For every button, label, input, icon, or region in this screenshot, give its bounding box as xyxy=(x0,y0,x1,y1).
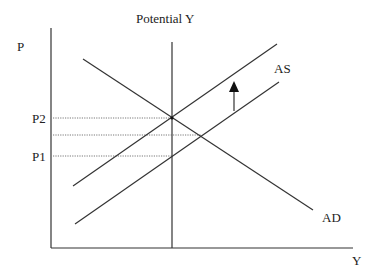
y-axis-label: P xyxy=(17,39,24,54)
as-curve-shifted xyxy=(73,44,277,186)
p1-label: P1 xyxy=(32,149,46,164)
as-curve-original xyxy=(75,82,279,224)
ad-as-diagram: Potential Y P Y P2 P1 AS AD xyxy=(0,0,382,280)
p2-label: P2 xyxy=(32,111,46,126)
x-axis-label: Y xyxy=(352,253,362,268)
title-label: Potential Y xyxy=(136,11,195,26)
equilibrium-point xyxy=(170,116,173,119)
ad-label: AD xyxy=(322,210,341,225)
arrow-up-icon xyxy=(229,81,239,92)
as-label: AS xyxy=(274,61,291,76)
